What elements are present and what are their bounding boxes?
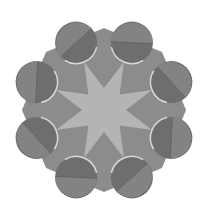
perimeter-circle	[111, 156, 153, 198]
perimeter-circle	[150, 61, 192, 103]
perimeter-circle	[150, 117, 192, 159]
perimeter-circle	[16, 117, 58, 159]
perimeter-circle	[16, 61, 58, 103]
perimeter-circle	[111, 22, 153, 64]
perimeter-circle	[55, 156, 97, 198]
octagon-star-circles-figure	[0, 0, 202, 208]
perimeter-circle	[55, 22, 97, 64]
